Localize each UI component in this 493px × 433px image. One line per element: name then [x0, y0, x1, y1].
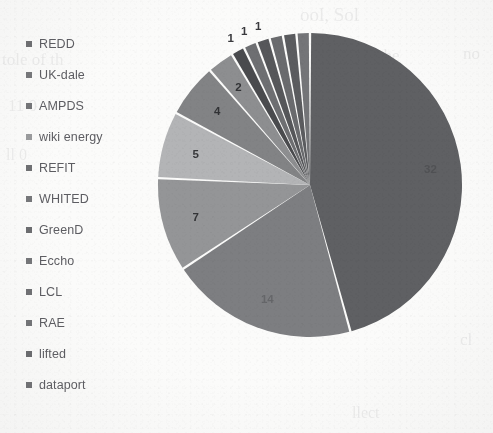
legend-item-label: LCL [39, 285, 62, 299]
legend-item-rae: RAE [26, 307, 166, 338]
legend-item-label: UK-dale [39, 68, 85, 82]
legend-swatch-icon [26, 72, 32, 78]
legend-item-wiki-energy: wiki energy [26, 121, 166, 152]
legend-item-label: lifted [39, 347, 66, 361]
legend-swatch-icon [26, 351, 32, 357]
pie-chart-svg: 32147542111 [152, 14, 493, 419]
legend-swatch-icon [26, 41, 32, 47]
legend-item-lcl: LCL [26, 276, 166, 307]
pie-slice-label: 14 [261, 293, 274, 305]
legend-item-label: Eccho [39, 254, 74, 268]
legend-item-dataport: dataport [26, 369, 166, 400]
pie-chart: 32147542111 [152, 14, 493, 419]
legend-item-uk-dale: UK-dale [26, 59, 166, 90]
legend-item-label: RAE [39, 316, 65, 330]
legend-swatch-icon [26, 258, 32, 264]
pie-slice-label: 4 [214, 105, 221, 117]
legend-item-ampds: AMPDS [26, 90, 166, 121]
legend-item-redd: REDD [26, 28, 166, 59]
legend-item-label: dataport [39, 378, 86, 392]
legend-swatch-icon [26, 289, 32, 295]
pie-slices [158, 33, 462, 337]
legend-item-label: WHITED [39, 192, 89, 206]
legend-swatch-icon [26, 134, 32, 140]
legend-item-label: AMPDS [39, 99, 84, 113]
legend-swatch-icon [26, 165, 32, 171]
legend-swatch-icon [26, 227, 32, 233]
pie-slice-label: 7 [192, 211, 198, 223]
bleed-text-7: ll 0 [6, 146, 27, 164]
legend-item-lifted: lifted [26, 338, 166, 369]
pie-slice-label: 2 [235, 81, 241, 93]
legend-swatch-icon [26, 320, 32, 326]
legend-item-refit: REFIT [26, 152, 166, 183]
legend-swatch-icon [26, 103, 32, 109]
legend-item-whited: WHITED [26, 183, 166, 214]
legend-item-label: GreenD [39, 223, 83, 237]
chart-legend: REDD UK-dale AMPDS wiki energy REFIT WHI… [26, 28, 166, 400]
pie-slice-label: 1 [241, 25, 248, 37]
pie-slice-label: 1 [255, 20, 262, 32]
pie-slice-label: 32 [424, 163, 437, 175]
legend-swatch-icon [26, 382, 32, 388]
pie-slice-label: 1 [228, 32, 235, 44]
pie-slice-label: 5 [192, 148, 199, 160]
legend-item-label: REDD [39, 37, 75, 51]
legend-item-label: wiki energy [39, 130, 103, 144]
legend-item-eccho: Eccho [26, 245, 166, 276]
legend-item-greend: GreenD [26, 214, 166, 245]
legend-item-label: REFIT [39, 161, 76, 175]
legend-swatch-icon [26, 196, 32, 202]
